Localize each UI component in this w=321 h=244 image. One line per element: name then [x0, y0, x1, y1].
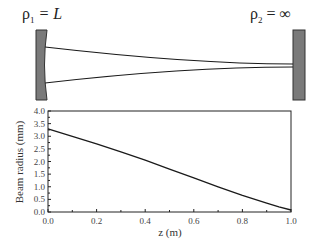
curvature-value: = L — [34, 5, 62, 22]
rho-symbol: ρ — [22, 5, 30, 22]
y-tick-label: 2.5 — [34, 144, 46, 154]
y-axis-label: Beam radius (mm) — [13, 120, 26, 203]
x-tick-label: 0.4 — [140, 216, 152, 226]
y-tick-label: 3.0 — [34, 131, 46, 141]
right-mirror-label: ρ2 = ∞ — [250, 5, 291, 25]
y-tick-label: 0.5 — [34, 194, 46, 204]
y-tick-label: 2.0 — [34, 157, 46, 167]
beam-lower-edge — [45, 67, 293, 83]
beam-radius-plot: 0.00.51.01.52.02.53.03.54.0 0.00.20.40.6… — [13, 106, 297, 239]
beam-upper-edge — [45, 47, 293, 64]
curvature-value: = ∞ — [262, 5, 290, 22]
left-mirror-label: ρ1 = L — [22, 5, 62, 25]
x-axis-label: z (m) — [158, 226, 182, 239]
x-tick-label: 0.8 — [237, 216, 249, 226]
y-tick-label: 3.5 — [34, 119, 46, 129]
x-tick-label: 0.2 — [91, 216, 102, 226]
y-tick-label: 1.0 — [34, 182, 46, 192]
x-tick-label: 0.0 — [42, 216, 54, 226]
right-mirror — [293, 30, 305, 100]
cavity-figure: 0.00.51.01.52.02.53.03.54.0 0.00.20.40.6… — [0, 0, 321, 244]
plot-frame — [48, 111, 291, 212]
beam-radius-curve — [48, 129, 291, 210]
rho-symbol: ρ — [250, 5, 258, 22]
y-tick-label: 4.0 — [34, 106, 46, 116]
left-mirror — [36, 30, 47, 100]
x-tick-label: 1.0 — [285, 216, 297, 226]
y-tick-label: 1.5 — [34, 169, 46, 179]
x-tick-label: 0.6 — [188, 216, 200, 226]
